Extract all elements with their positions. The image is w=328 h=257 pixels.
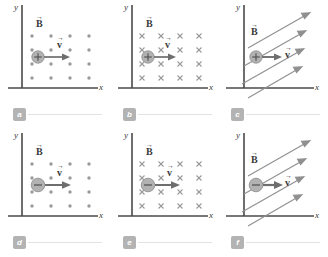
panel-e-caption: e <box>120 236 212 250</box>
panel-d-plot: → B → v y x <box>0 128 108 232</box>
panel-e: → B → v y x e <box>110 128 218 256</box>
panel-label-badge-a: a <box>13 108 26 121</box>
panel-b-v-label: → v <box>165 36 172 50</box>
panel-a-y-label: y <box>14 3 18 12</box>
panel-e-x-label: x <box>209 211 213 220</box>
vector-arrow-icon: → <box>251 23 258 27</box>
panel-label-badge-b: b <box>123 108 136 121</box>
caption-rail-line <box>28 242 102 243</box>
velocity-arrow-f <box>263 181 283 189</box>
charge-d <box>31 178 45 192</box>
panel-f-x-label: x <box>315 211 319 220</box>
vector-arrow-icon: → <box>57 36 64 40</box>
panel-c-axes <box>218 0 326 104</box>
panel-b-plot: → B → v y x <box>110 0 218 104</box>
panel-c: → B → v y x c <box>218 0 326 128</box>
panel-d-x-label: x <box>99 211 103 220</box>
vector-arrow-icon: → <box>57 164 64 168</box>
panel-c-b-label: → B <box>251 23 258 37</box>
velocity-arrow-d <box>45 181 71 189</box>
panel-label-badge-d: d <box>13 236 26 249</box>
velocity-arrow-a <box>44 54 70 61</box>
panel-d-b-label: → B <box>36 143 43 157</box>
panel-b-b-label: → B <box>146 15 153 29</box>
vector-arrow-icon: → <box>167 164 174 168</box>
vector-arrow-icon: → <box>36 143 43 147</box>
panel-f-v-label: → v <box>285 174 292 188</box>
panel-a-x-label: x <box>99 83 103 92</box>
panel-d: → B → v y x d <box>0 128 108 256</box>
panel-b-axes <box>110 0 218 104</box>
panel-a-v-label: → v <box>57 36 64 50</box>
panel-e-plot: → B → v y x <box>110 128 218 232</box>
vector-arrow-icon: → <box>285 174 292 178</box>
panel-e-v-label: → v <box>167 164 174 178</box>
charge-e <box>141 178 155 192</box>
vector-arrow-icon: → <box>165 36 172 40</box>
panel-c-y-label: y <box>236 3 240 12</box>
panel-f: → B → v y x f <box>218 128 326 256</box>
caption-rail-line <box>138 242 212 243</box>
charge-b <box>142 51 154 63</box>
panel-d-y-label: y <box>14 131 18 140</box>
panel-f-caption: f <box>228 236 320 250</box>
figure-root: → B → v y x a <box>0 0 328 257</box>
charge-a <box>32 51 44 63</box>
panel-f-axes <box>218 128 326 232</box>
vector-arrow-icon: → <box>285 46 292 50</box>
panel-b-x-label: x <box>209 83 213 92</box>
caption-rail-line <box>246 114 320 115</box>
panel-e-y-label: y <box>124 131 128 140</box>
vector-arrow-icon: → <box>36 15 43 19</box>
panel-a-plot: → B → v y x <box>0 0 108 104</box>
panel-b: → B → v y x b <box>110 0 218 128</box>
panel-d-caption: d <box>10 236 102 250</box>
velocity-arrow-b <box>154 54 176 61</box>
panel-d-axes <box>0 128 108 232</box>
panel-f-plot: → B → v y x <box>218 128 326 232</box>
panel-f-b-label: → B <box>251 151 258 165</box>
panel-a: → B → v y x a <box>0 0 108 128</box>
panel-c-plot: → B → v y x <box>218 0 326 104</box>
panel-e-axes <box>110 128 218 232</box>
vector-arrow-icon: → <box>146 143 153 147</box>
panel-c-v-label: → v <box>285 46 292 60</box>
caption-rail-line <box>138 114 212 115</box>
velocity-arrow-e <box>155 181 180 189</box>
charge-c <box>250 51 262 63</box>
caption-rail-line <box>28 114 102 115</box>
panel-b-y-label: y <box>124 3 128 12</box>
panel-label-badge-e: e <box>123 236 136 249</box>
panel-d-v-label: → v <box>57 164 64 178</box>
panel-c-caption: c <box>228 108 320 122</box>
panel-label-badge-f: f <box>231 236 244 249</box>
charge-f <box>249 178 263 192</box>
panel-b-caption: b <box>120 108 212 122</box>
panel-a-caption: a <box>10 108 102 122</box>
panel-label-badge-c: c <box>231 108 244 121</box>
panel-a-axes <box>0 0 108 104</box>
caption-rail-line <box>246 242 320 243</box>
vector-arrow-icon: → <box>251 151 258 155</box>
panel-c-x-label: x <box>315 83 319 92</box>
panel-a-b-label: → B <box>36 15 43 29</box>
vector-arrow-icon: → <box>146 15 153 19</box>
panel-e-b-label: → B <box>146 143 153 157</box>
panel-f-y-label: y <box>236 131 240 140</box>
